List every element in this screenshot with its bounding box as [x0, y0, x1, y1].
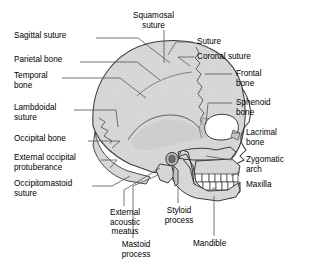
- label-external-occipital-protuberance: External occipital protuberance: [14, 153, 76, 172]
- styloid-process: [173, 166, 178, 186]
- label-mandible: Mandible: [193, 239, 226, 249]
- label-styloid-process: Styloid process: [155, 206, 203, 225]
- label-temporal-bone: Temporal bone: [14, 71, 48, 90]
- label-squamosal-suture: Squamosal suture: [133, 11, 174, 30]
- upper-teeth: [195, 174, 238, 182]
- label-occipital-bone: Occipital bone: [14, 134, 66, 144]
- skull-diagram: Sagittal suture Parietal bone Temporal b…: [0, 0, 314, 270]
- label-occipitomastoid-suture: Occipitomastoid suture: [14, 179, 72, 198]
- label-sagittal-suture: Sagittal suture: [14, 31, 66, 41]
- label-frontal-bone: Frontal bone: [236, 69, 261, 88]
- label-mastoid-process: Mastoid process: [110, 240, 162, 259]
- label-maxilla: Maxilla: [246, 180, 271, 190]
- label-parietal-bone: Parietal bone: [14, 55, 62, 65]
- label-lambdoidal-suture: Lambdoidal suture: [14, 103, 56, 122]
- label-lacrimal-bone: Lacrimal bone: [246, 128, 277, 147]
- external-acoustic-meatus: [166, 152, 178, 165]
- label-coronal-suture: Coronal suture: [197, 52, 251, 62]
- label-suture: Suture: [197, 37, 221, 47]
- label-zygomatic-arch: Zygomatic arch: [246, 155, 284, 174]
- label-external-acoustic-meatus: External acoustic meatus: [96, 208, 154, 237]
- label-sphenoid-bone: Sphenoid bone: [236, 98, 271, 117]
- mental-foramen: [212, 188, 215, 191]
- mastoid-process: [156, 164, 174, 183]
